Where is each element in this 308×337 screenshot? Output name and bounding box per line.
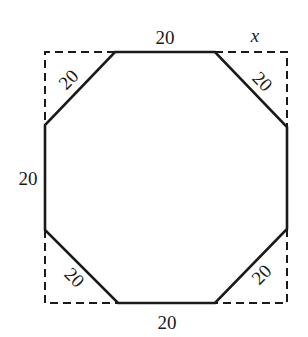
label-diag-bottom-left: 20 (60, 263, 88, 291)
label-top-side: 20 (156, 27, 175, 48)
label-corner-x: x (250, 25, 260, 46)
label-bottom-side: 20 (158, 312, 177, 333)
octagon-diagram: 20 20 20 x 20 20 20 20 (0, 0, 308, 337)
label-left-side: 20 (19, 168, 38, 189)
octagon-shape (45, 52, 287, 303)
